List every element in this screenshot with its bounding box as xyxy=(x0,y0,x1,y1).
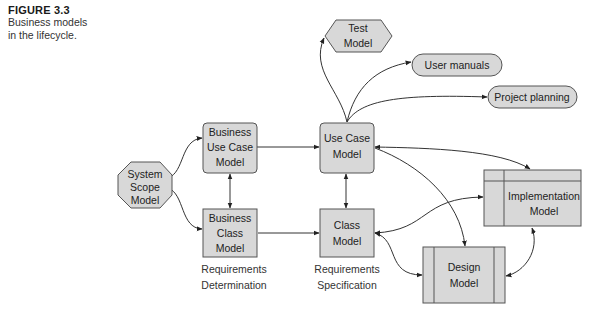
node-project-planning[interactable]: Project planning xyxy=(488,86,577,108)
node-implementation-model[interactable]: Implementation Model xyxy=(484,170,581,226)
phase-label-line: Requirements xyxy=(201,263,266,275)
node-label: Model xyxy=(333,235,362,247)
edge-class-design xyxy=(375,233,422,275)
node-label: Project planning xyxy=(494,91,569,103)
node-label: Model xyxy=(216,242,245,254)
node-label: Class xyxy=(217,227,243,239)
phase-label-line: Specification xyxy=(317,279,377,291)
node-label: System xyxy=(127,168,162,180)
phase-label-requirements-specification: Requirements Specification xyxy=(314,263,379,291)
phase-label-line: Determination xyxy=(201,279,267,291)
node-label: Model xyxy=(131,194,160,206)
node-label: Test xyxy=(348,22,367,34)
edge-use-case-to-project-planning xyxy=(347,96,487,122)
node-label: User manuals xyxy=(425,59,490,71)
node-label: Model xyxy=(450,277,479,289)
node-user-manuals[interactable]: User manuals xyxy=(412,54,502,76)
node-label: Design xyxy=(448,261,481,273)
node-label: Business xyxy=(209,126,252,138)
node-label: Scope xyxy=(130,181,160,193)
node-class-model[interactable]: Class Model xyxy=(320,209,374,257)
node-test-model[interactable]: Test Model xyxy=(325,20,392,52)
node-label: Model xyxy=(530,205,559,217)
node-label: Business xyxy=(209,212,252,224)
node-label: Use Case xyxy=(207,141,253,153)
node-label: Use Case xyxy=(324,132,370,144)
node-use-case-model[interactable]: Use Case Model xyxy=(320,123,374,173)
node-system-scope-model[interactable]: System Scope Model xyxy=(118,162,172,208)
node-label: Model xyxy=(216,156,245,168)
edge-use-case-implementation xyxy=(375,147,530,169)
phase-label-requirements-determination: Requirements Determination xyxy=(201,263,267,291)
node-design-model[interactable]: Design Model xyxy=(423,247,505,303)
node-label: Model xyxy=(344,37,373,49)
node-label: Class xyxy=(334,219,360,231)
edge-scope-to-business-class xyxy=(168,188,202,229)
node-label: Model xyxy=(333,148,362,160)
edge-scope-to-business-use-case xyxy=(168,138,202,178)
node-business-class-model[interactable]: Business Class Model xyxy=(203,209,257,257)
phase-label-line: Requirements xyxy=(314,263,379,275)
edge-use-case-to-user-manuals xyxy=(347,62,411,122)
edge-design-implementation xyxy=(506,228,534,276)
node-label: Implementation xyxy=(508,190,580,202)
business-models-diagram: System Scope Model Business Use Case Mod… xyxy=(0,0,611,314)
edge-class-implementation xyxy=(375,197,483,233)
node-business-use-case-model[interactable]: Business Use Case Model xyxy=(203,123,257,173)
